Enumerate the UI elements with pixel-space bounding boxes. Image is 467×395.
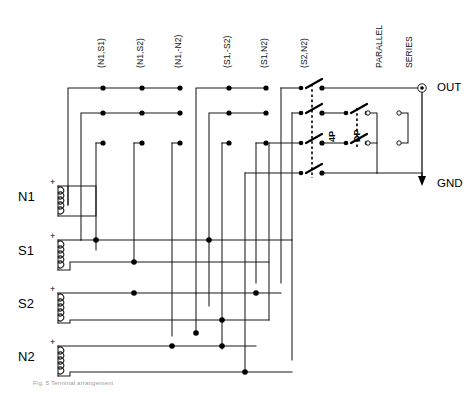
column-label-n1-s1: (N1,S1): [96, 38, 106, 68]
wiring-diagram: .w{stroke:#1a1a1a;stroke-width:1.05;fill…: [0, 0, 467, 395]
bus-row-3-stubs: [96, 140, 183, 336]
winding-label-s2: S2: [18, 296, 34, 311]
winding-label-n1: N1: [18, 189, 35, 204]
winding-N1: [58, 186, 96, 216]
switch-4p-left-contacts: [299, 86, 304, 176]
terminal-label-gnd: GND: [437, 177, 463, 189]
column-label-n1-s2: (N1,S2): [135, 38, 145, 68]
output-rail: [418, 84, 426, 186]
winding-S2: [58, 290, 281, 323]
polarity-mark-n1: +: [50, 178, 55, 187]
figure-caption: Fig. 5 Terminal arrangement: [33, 380, 113, 386]
column-label-n1-n2: (N1,-N2): [173, 35, 183, 68]
polarity-mark-s2: +: [50, 285, 55, 294]
polarity-mark-n2: +: [50, 338, 55, 347]
bus-row-4: [196, 85, 269, 333]
column-label-s1-s2: (S1,-S2): [222, 36, 232, 68]
switch-pole-label-4p: 4P: [327, 131, 337, 142]
switch-label-parallel: PARALLEL: [374, 25, 384, 68]
winding-label-s1: S1: [18, 243, 34, 258]
column-label-s1-n2: (S1,N2): [259, 38, 269, 68]
polarity-mark-s1: +: [50, 232, 55, 241]
bus-row-1: [68, 85, 183, 205]
terminal-label-out: OUT: [437, 81, 461, 93]
series-jumper: [397, 111, 408, 145]
winding-label-n2: N2: [18, 349, 35, 364]
bus-row-5: [209, 110, 269, 306]
winding-N2: [58, 330, 292, 376]
switch-4p-output-wires: [322, 88, 422, 173]
switch-4p[interactable]: [306, 79, 325, 178]
parallel-jumper: [366, 111, 377, 173]
column-6-riser: [245, 88, 300, 372]
switch-label-series: SERIES: [404, 36, 414, 68]
switch-pole-label-dp: DP: [352, 129, 362, 142]
column-label-s2-n2: (S2,N2): [299, 38, 309, 68]
schematic-canvas: .w{stroke:#1a1a1a;stroke-width:1.05;fill…: [0, 0, 467, 395]
winding-S1: [58, 237, 292, 270]
